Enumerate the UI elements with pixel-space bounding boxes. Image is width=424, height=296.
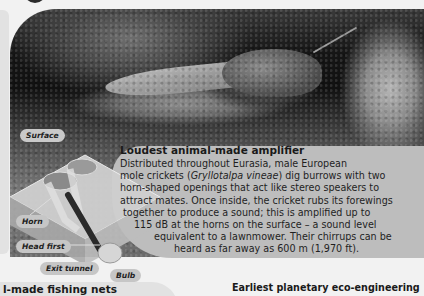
section-title-eco-engineering: Earliest planetary eco-engineering xyxy=(232,282,420,293)
body-line: Distributed throughout Eurasia, male Eur… xyxy=(120,158,420,170)
top-decoration xyxy=(24,0,46,3)
label-exit-tunnel: Exit tunnel xyxy=(40,262,99,275)
body-line: attract mates. Once inside, the cricket … xyxy=(120,195,420,207)
cricket-wing xyxy=(104,59,256,101)
cricket-antenna xyxy=(313,27,357,54)
body-line: together to produce a sound; this is amp… xyxy=(120,207,420,219)
species-name: Gryllotalpa vineae xyxy=(191,170,279,181)
body-line: heard as far away as 600 m (1,970 ft). xyxy=(120,243,420,255)
label-bulb: Bulb xyxy=(110,269,141,282)
label-head-first: Head first xyxy=(16,240,71,253)
body-line: horn-shaped openings that act like stere… xyxy=(120,182,420,194)
article-body: Distributed throughout Eurasia, male Eur… xyxy=(120,158,420,256)
section-title-fishing-nets: l-made fishing nets xyxy=(3,283,117,295)
body-line: mole crickets (Gryllotalpa vineae) dig b… xyxy=(120,170,420,182)
label-surface: Surface xyxy=(20,129,65,142)
cricket-body xyxy=(222,49,322,97)
body-line: equivalent to a lawnmower. Their chirrup… xyxy=(120,231,420,243)
label-horn: Horn xyxy=(16,215,49,228)
left-margin-strip xyxy=(0,10,9,254)
article-title: Loudest animal-made amplifier xyxy=(120,144,304,156)
body-line: 115 dB at the horns on the surface – a s… xyxy=(120,219,420,231)
